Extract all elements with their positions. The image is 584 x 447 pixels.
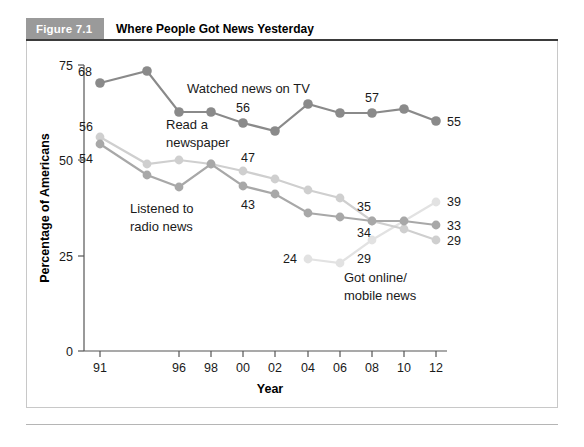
annotation-newspaper-1: Read a	[166, 117, 209, 132]
series-tv-point	[238, 118, 248, 128]
value-label-tv-68: 68	[78, 65, 92, 79]
x-axis-title: Year	[257, 382, 284, 396]
series-radio-point	[400, 217, 409, 226]
x-tick-label-96: 96	[172, 361, 186, 375]
series-radio-point	[271, 190, 280, 199]
figure-panel: 75 50 25 0 91 96	[26, 41, 558, 408]
series-tv-point	[95, 78, 105, 88]
annotation-online-1: Got online/	[344, 270, 407, 285]
value-label-radio-33: 33	[447, 219, 461, 233]
annotation-radio-2: radio news	[130, 219, 193, 234]
series-newspaper-point	[239, 167, 248, 176]
series-radio-point	[336, 213, 345, 222]
series-tv-point	[399, 104, 409, 114]
y-tick-label-25: 25	[59, 250, 73, 264]
x-tick-label-00: 00	[236, 361, 250, 375]
series-tv-point	[367, 108, 377, 118]
annotation-newspaper-2: newspaper	[166, 135, 230, 150]
series-tv-point	[270, 126, 280, 136]
series-online-point	[336, 259, 345, 268]
series-radio-point	[239, 182, 248, 191]
series-online-point	[304, 255, 313, 264]
series-radio-point	[368, 217, 377, 226]
figure-header: Figure 7.1 Where People Got News Yesterd…	[26, 18, 558, 41]
series-newspaper-point	[304, 186, 313, 195]
value-label-online-24: 24	[283, 252, 297, 266]
y-tick-label-0: 0	[66, 345, 73, 359]
series-radio-point	[304, 209, 313, 218]
chart-area: 75 50 25 0 91 96	[27, 41, 557, 407]
series-newspaper-point	[336, 194, 345, 203]
value-label-tv-56: 56	[236, 101, 250, 115]
figure-container: Figure 7.1 Where People Got News Yesterd…	[26, 18, 558, 410]
x-tick-label-91: 91	[93, 361, 107, 375]
x-tick-label-02: 02	[268, 361, 282, 375]
y-tick-label-75: 75	[59, 59, 73, 73]
series-radio-point	[207, 160, 216, 169]
figure-number-badge: Figure 7.1	[26, 18, 104, 39]
series-tv-point	[303, 99, 313, 109]
series-radio-point	[432, 221, 441, 230]
series-radio-point	[143, 171, 152, 180]
series-online-point	[432, 198, 441, 207]
series-tv-point	[206, 107, 216, 117]
value-label-tv-55: 55	[447, 115, 461, 129]
value-label-newspaper-47: 47	[241, 151, 255, 165]
bottom-divider	[26, 424, 558, 425]
annotation-radio-1: Listened to	[130, 201, 194, 216]
figure-title: Where People Got News Yesterday	[104, 18, 558, 39]
series-tv-point	[431, 116, 441, 126]
series-radio-point	[96, 140, 105, 149]
series-tv-line	[100, 71, 436, 131]
value-label-newspaper-29: 29	[447, 234, 461, 248]
value-label-online-29: 29	[357, 252, 371, 266]
series-tv-point	[142, 66, 152, 76]
value-label-online-39: 39	[447, 195, 461, 209]
x-tick-label-08: 08	[365, 361, 379, 375]
x-tick-label-12: 12	[429, 361, 443, 375]
x-tick-label-06: 06	[333, 361, 347, 375]
x-tick-label-04: 04	[301, 361, 315, 375]
annotation-online-2: mobile news	[344, 288, 417, 303]
value-label-radio-54: 54	[79, 152, 93, 166]
x-tick-label-98: 98	[204, 361, 218, 375]
series-radio-point	[175, 183, 184, 192]
series-watched-tv	[95, 66, 441, 136]
series-newspaper-point	[400, 225, 409, 234]
series-online-mobile	[304, 198, 441, 268]
value-label-radio-43: 43	[241, 198, 255, 212]
value-label-radio-35: 35	[357, 200, 371, 214]
y-axis-title: Percentage of Americans	[38, 133, 52, 283]
series-newspaper-point	[175, 156, 184, 165]
series-newspaper-point	[143, 160, 152, 169]
value-label-radio-34: 34	[357, 226, 371, 240]
value-label-tv-57: 57	[365, 91, 379, 105]
y-tick-label-50: 50	[59, 154, 73, 168]
series-newspaper-point	[271, 175, 280, 184]
value-label-newspaper-56: 56	[79, 120, 93, 134]
x-tick-label-10: 10	[397, 361, 411, 375]
line-chart: 75 50 25 0 91 96	[27, 41, 557, 406]
annotation-watched-tv: Watched news on TV	[187, 81, 310, 96]
series-tv-point	[335, 108, 345, 118]
series-tv-point	[174, 107, 184, 117]
series-newspaper-point	[432, 236, 441, 245]
